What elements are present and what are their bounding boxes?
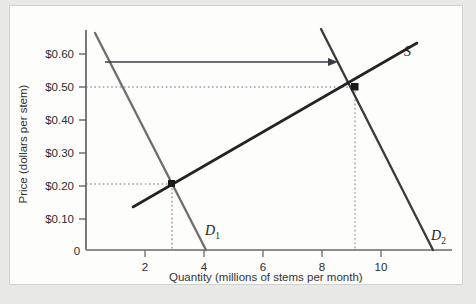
y-tick-label-060: $0.60: [24, 48, 74, 60]
y-tick-label-040: $0.40: [24, 114, 74, 126]
demand-curve-1: [95, 33, 206, 250]
origin-label: 0: [74, 245, 80, 257]
y-axis-ticks: [79, 54, 86, 219]
supply-curve: [133, 43, 417, 207]
demand-shift-arrow: [105, 58, 338, 66]
x-tick-label-2: 2: [142, 261, 148, 273]
new-equilibrium-point: [351, 83, 359, 91]
y-tick-label-030: $0.30: [24, 147, 74, 159]
x-axis-ticks: [145, 250, 381, 257]
initial-equilibrium-point: [168, 180, 175, 187]
axes-group: [86, 30, 452, 250]
y-tick-label-050: $0.50: [24, 81, 74, 93]
demand-curve-2-label: D2: [431, 228, 446, 246]
x-axis-title: Quantity (millions of stems per month): [169, 271, 363, 283]
y-tick-label-020: $0.20: [24, 180, 74, 192]
demand-curve-2: [321, 29, 433, 250]
demand-curve-1-label: D1: [205, 223, 220, 241]
supply-curve-label: S: [404, 44, 411, 60]
figure-container: $0.60 $0.50 $0.40 $0.30 $0.20 $0.10 0 2 …: [0, 0, 476, 304]
y-axis-title: Price (dollars per stem): [17, 69, 29, 219]
guide-lines: [86, 87, 355, 250]
y-tick-label-010: $0.10: [24, 213, 74, 225]
x-tick-label-10: 10: [375, 261, 388, 273]
